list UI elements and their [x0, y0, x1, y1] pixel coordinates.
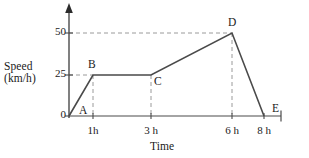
- y-axis-arrowhead: [65, 3, 73, 13]
- y-axis-title-line2: (km/h): [4, 72, 36, 84]
- x-axis-title: Time: [150, 140, 174, 152]
- data-point-label-d: D: [228, 16, 236, 28]
- x-tick-label-6h: 6 h: [217, 125, 247, 137]
- y-axis-title: Speed (km/h): [4, 60, 36, 84]
- data-point-label-e: E: [272, 102, 279, 114]
- speed-time-curve: [69, 33, 264, 116]
- data-point-label-a: A: [79, 104, 87, 116]
- y-tick-label-25: 25: [44, 68, 66, 80]
- y-tick-label-0: 0: [44, 109, 66, 121]
- speed-time-graph-figure: Speed (km/h) Time 0 25 50 1h 3 h 6 h 8 h…: [0, 0, 309, 158]
- x-tick-label-1h: 1h: [78, 125, 108, 137]
- y-axis-title-line1: Speed: [4, 60, 36, 72]
- x-tick-label-3h: 3 h: [136, 125, 166, 137]
- data-point-label-b: B: [88, 58, 96, 70]
- x-tick-label-8h: 8 h: [249, 125, 279, 137]
- y-tick-label-50: 50: [44, 26, 66, 38]
- data-point-label-c: C: [154, 75, 162, 87]
